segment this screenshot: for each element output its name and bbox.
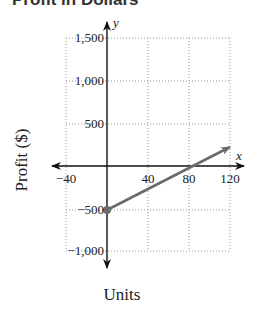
x-axis-label: Units xyxy=(0,285,254,305)
svg-text:500: 500 xyxy=(85,116,105,131)
y-axis-label: Profit ($) xyxy=(12,120,32,200)
svg-text:120: 120 xyxy=(220,171,240,186)
svg-text:80: 80 xyxy=(183,171,196,186)
svg-text:−40: −40 xyxy=(56,171,76,186)
svg-text:1,500: 1,500 xyxy=(75,30,104,45)
svg-text:1,000: 1,000 xyxy=(75,73,104,88)
y-axis-name: y xyxy=(111,15,119,30)
x-axis-label-text: Units xyxy=(104,285,141,304)
grid xyxy=(66,38,230,251)
x-axis-name: x xyxy=(235,148,242,163)
start-point xyxy=(103,206,111,214)
svg-text:40: 40 xyxy=(142,171,155,186)
svg-text:−500: −500 xyxy=(77,202,104,217)
svg-text:−1,000: −1,000 xyxy=(67,243,104,258)
plot-area: y x 1,500 1,000 500 −500 −1,000 −40 40 8… xyxy=(0,0,254,309)
profit-line xyxy=(107,147,230,210)
